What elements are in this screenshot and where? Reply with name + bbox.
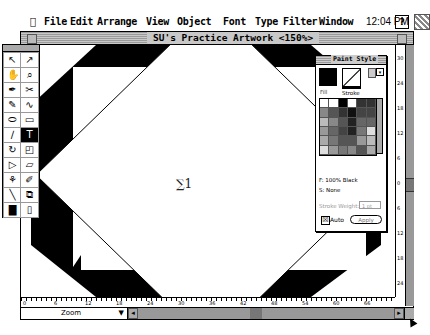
apple-menu-icon[interactable]:  <box>30 16 36 27</box>
direct-selection-tool-icon[interactable]: ↗ <box>20 52 39 68</box>
color-swatch[interactable] <box>339 127 348 136</box>
stroke-info: S: None <box>319 187 340 193</box>
color-swatch[interactable] <box>367 136 376 145</box>
color-swatch[interactable] <box>329 99 338 108</box>
color-swatch[interactable] <box>367 99 376 108</box>
stroke-swatch[interactable] <box>342 68 361 87</box>
toolbox-titlebar[interactable] <box>3 45 39 52</box>
color-swatch[interactable] <box>329 127 338 136</box>
palette-view-options[interactable]: ▾ <box>368 68 382 76</box>
color-swatch[interactable] <box>348 136 357 145</box>
color-swatch[interactable] <box>320 108 329 117</box>
zoom-tool-icon[interactable]: ⌕ <box>20 67 39 83</box>
apply-button[interactable]: Apply <box>350 215 382 224</box>
color-swatch[interactable] <box>339 136 348 145</box>
horizontal-ruler: 0 6 12 18 24 30 36 42 48 54 60 66 <box>21 297 395 307</box>
shear-tool-icon[interactable]: ▱ <box>20 157 39 173</box>
menu-object[interactable]: Object <box>177 16 211 27</box>
freehand-tool-icon[interactable]: ∿ <box>20 97 39 113</box>
window-bottom-bar: Zoom ▼ ◂ ▸ <box>21 307 413 320</box>
color-swatch[interactable] <box>367 127 376 136</box>
color-swatch[interactable] <box>339 146 348 155</box>
paint-style-titlebar[interactable]: Paint Style <box>316 56 386 65</box>
color-swatch[interactable] <box>357 136 366 145</box>
menu-font[interactable]: Font <box>223 16 246 27</box>
color-swatch[interactable] <box>348 118 357 127</box>
window-titlebar[interactable]: SU's Practice Artwork <150%> <box>21 32 413 45</box>
stroke-label: Stroke <box>342 90 360 96</box>
color-swatch[interactable] <box>357 146 366 155</box>
color-swatch[interactable] <box>357 118 366 127</box>
fill-swatch[interactable] <box>319 68 337 86</box>
scale-tool-icon[interactable]: ◰ <box>20 142 39 158</box>
palette-options-icon[interactable] <box>368 68 376 78</box>
mouse-cursor-icon <box>407 317 418 328</box>
menu-type[interactable]: Type <box>255 16 278 27</box>
scroll-left-arrow-icon[interactable]: ◂ <box>128 308 138 319</box>
chevron-down-icon: ▼ <box>119 308 124 319</box>
rectangle-tool-icon[interactable]: ▭ <box>20 112 39 128</box>
vertical-scrollbar[interactable] <box>405 45 414 306</box>
color-swatch[interactable] <box>320 118 329 127</box>
color-swatch[interactable] <box>357 99 366 108</box>
menu-file[interactable]: File <box>44 16 67 27</box>
color-swatch[interactable] <box>339 118 348 127</box>
toolbox-palette: ↖ ↗ ✋ ⌕ ✒ ✂ ✎ ∿ ⬭ ▭ ∕ T ↻ ◰ ▷ ▱ ⚘ ✐ ╲ ⧉ … <box>2 44 40 218</box>
horizontal-scrollbar[interactable]: ◂ ▸ <box>128 308 404 319</box>
paint-style-title: Paint Style <box>331 55 378 64</box>
artwork-label: ∑1 <box>176 177 192 191</box>
application-menu-icon[interactable] <box>414 14 430 30</box>
gradient-tool-icon[interactable]: ⧉ <box>20 187 39 203</box>
close-box-icon[interactable] <box>27 34 37 44</box>
menu-edit[interactable]: Edit <box>70 16 93 27</box>
color-swatch[interactable] <box>357 127 366 136</box>
stroke-selected-indicator <box>342 87 361 89</box>
color-swatch[interactable] <box>320 127 329 136</box>
color-swatch[interactable] <box>339 99 348 108</box>
scissors-tool-icon[interactable]: ✂ <box>20 82 39 98</box>
paint-style-palette: Paint Style Fill Stroke ▾ F: 100% Black … <box>315 55 387 232</box>
horizontal-scroll-thumb[interactable] <box>250 308 262 319</box>
auto-label: Auto <box>330 216 344 223</box>
color-swatch[interactable] <box>329 118 338 127</box>
stroke-weight-label: Stroke Weight: <box>319 203 359 209</box>
zoom-popup-menu[interactable]: Zoom ▼ <box>21 308 128 319</box>
menu-window[interactable]: Window <box>319 16 353 27</box>
zoom-label: Zoom <box>61 308 81 319</box>
color-swatch[interactable] <box>348 108 357 117</box>
window-title: SU's Practice Artwork <150%> <box>147 32 319 44</box>
page-tool-icon[interactable]: ▯ <box>20 202 39 218</box>
color-swatch[interactable] <box>367 108 376 117</box>
color-swatch[interactable] <box>320 99 329 108</box>
menu-view[interactable]: View <box>146 16 169 27</box>
menu-arrange[interactable]: Arrange <box>97 16 137 27</box>
color-swatch[interactable] <box>329 136 338 145</box>
color-swatch[interactable] <box>320 136 329 145</box>
color-swatch[interactable] <box>367 118 376 127</box>
fill-info: F: 100% Black <box>319 177 358 183</box>
color-swatch[interactable] <box>329 146 338 155</box>
color-swatch[interactable] <box>339 108 348 117</box>
vertical-scroll-thumb[interactable] <box>406 178 414 192</box>
eyedropper-tool-icon[interactable]: ✐ <box>20 172 39 188</box>
zoom-box-icon[interactable] <box>397 34 407 44</box>
color-swatch[interactable] <box>367 146 376 155</box>
color-swatch[interactable] <box>357 108 366 117</box>
fill-label: Fill <box>320 89 327 95</box>
swatch-scrollbar[interactable] <box>376 98 383 154</box>
palette-menu-arrow-icon[interactable]: ▾ <box>376 68 384 76</box>
color-swatch[interactable] <box>320 146 329 155</box>
color-swatch[interactable] <box>348 146 357 155</box>
menu-filter[interactable]: Filter <box>283 16 317 27</box>
color-swatch[interactable] <box>329 108 338 117</box>
menu-bar:  File Edit Arrange View Object Font Typ… <box>0 14 430 30</box>
type-tool-icon[interactable]: T <box>20 127 39 143</box>
auto-checkbox[interactable]: ☒ <box>321 216 330 225</box>
stroke-weight-field[interactable]: 1 pt <box>359 201 381 209</box>
color-swatch-grid[interactable] <box>319 98 377 156</box>
color-swatch[interactable] <box>348 127 357 136</box>
scroll-right-arrow-icon[interactable]: ▸ <box>394 308 404 319</box>
help-menu-icon[interactable]: ? <box>395 15 409 29</box>
color-swatch[interactable] <box>348 99 357 108</box>
